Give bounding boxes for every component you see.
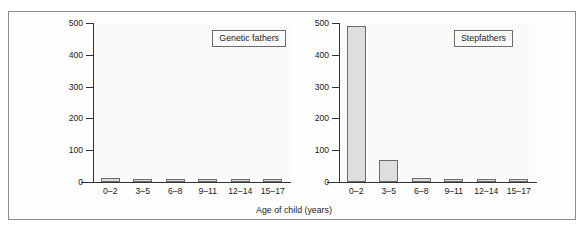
- y-axis-title-line-1: Homicide victims per million: [7, 0, 18, 20]
- bar: [444, 179, 463, 182]
- y-tick-label: 100: [297, 146, 329, 155]
- y-tick-mark: [332, 118, 339, 119]
- y-tick-label: 500: [51, 19, 83, 28]
- y-tick-label: 0: [297, 178, 329, 187]
- x-tick-label: 15–17: [497, 187, 541, 196]
- y-tick-mark: [86, 118, 93, 119]
- x-axis-title: Age of child (years): [159, 205, 429, 215]
- bar: [101, 178, 120, 182]
- y-axis-title-line-2: co-resident parent-child: [18, 0, 29, 20]
- x-tick-label: 15–17: [251, 187, 295, 196]
- y-tick-label: 100: [51, 146, 83, 155]
- y-tick-label: 200: [297, 114, 329, 123]
- figure-frame: Homicide victims per million co-resident…: [8, 11, 576, 220]
- x-axis-line-left: [81, 182, 291, 183]
- bar: [379, 160, 398, 182]
- y-tick-mark: [332, 182, 339, 183]
- y-tick-mark: [86, 150, 93, 151]
- bar: [347, 26, 366, 182]
- bar: [509, 179, 528, 182]
- y-axis-title: Homicide victims per million co-resident…: [7, 0, 53, 20]
- y-axis-title-line-3: dyads per annum: [28, 0, 39, 20]
- bar: [263, 179, 282, 182]
- x-axis-line-right: [327, 182, 537, 183]
- y-tick-label: 400: [51, 51, 83, 60]
- bar: [477, 179, 496, 182]
- legend-stepfathers: Stepfathers: [454, 30, 513, 47]
- bar: [166, 179, 185, 182]
- y-tick-mark: [86, 182, 93, 183]
- y-tick-mark: [332, 87, 339, 88]
- panel-stepfathers: 0 100 200 300 400 500 0–2 3–5 6–8 9–11 1…: [299, 12, 539, 221]
- y-tick-label: 200: [51, 114, 83, 123]
- y-tick-mark: [332, 55, 339, 56]
- y-tick-label: 300: [297, 83, 329, 92]
- y-tick-mark: [332, 150, 339, 151]
- y-tick-mark: [86, 55, 93, 56]
- y-tick-label: 400: [297, 51, 329, 60]
- panel-genetic-fathers: 0 100 200 300 400 500 0–2 3–5 6–8 9–11 1…: [53, 12, 293, 221]
- bar: [231, 179, 250, 182]
- y-tick-label: 500: [297, 19, 329, 28]
- bar: [198, 179, 217, 182]
- bar: [412, 178, 431, 182]
- bar: [133, 179, 152, 182]
- y-tick-mark: [86, 87, 93, 88]
- legend-genetic-fathers: Genetic fathers: [212, 30, 286, 47]
- y-tick-mark: [332, 23, 339, 24]
- y-tick-label: 0: [51, 178, 83, 187]
- y-tick-label: 300: [51, 83, 83, 92]
- y-tick-mark: [86, 23, 93, 24]
